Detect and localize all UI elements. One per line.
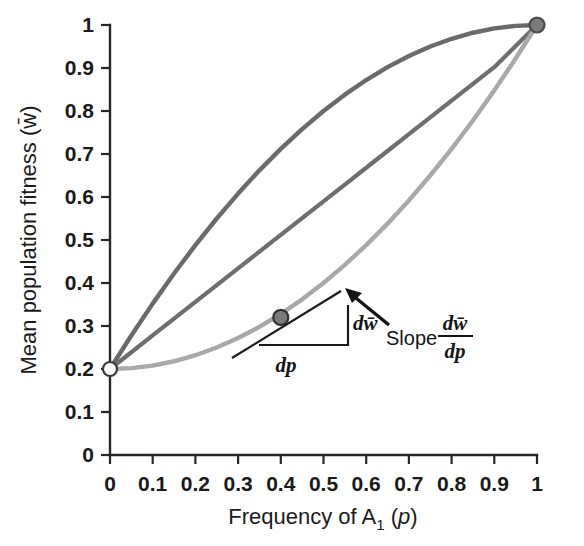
y-tick-label: 1 bbox=[82, 13, 94, 36]
x-tick-label: 0.4 bbox=[266, 472, 296, 495]
x-axis-title-paren-close: ) bbox=[410, 504, 417, 529]
y-tick-label: 0.6 bbox=[65, 185, 94, 208]
slope-denominator: dp bbox=[445, 339, 466, 363]
y-tick-label: 0.8 bbox=[65, 99, 95, 122]
run-label: dp bbox=[276, 353, 297, 377]
fitness-curve-chart: 00.10.20.30.40.50.60.70.80.91 00.10.20.3… bbox=[0, 0, 584, 546]
x-axis-title-paren-open: ( bbox=[385, 504, 399, 529]
x-tick-label: 0.1 bbox=[138, 472, 168, 495]
y-axis-title-group: Mean population fitness (w̄) bbox=[16, 105, 41, 374]
marker-left-endpoint bbox=[103, 362, 117, 376]
y-axis-title-main: Mean population fitness ( bbox=[16, 128, 41, 374]
y-tick-label: 0.1 bbox=[65, 400, 95, 423]
slope-numerator: dw̄ bbox=[443, 311, 469, 335]
marker-tangent-point bbox=[273, 310, 288, 325]
y-tick-label: 0.5 bbox=[65, 228, 95, 251]
x-tick-label: 0.2 bbox=[181, 472, 210, 495]
x-axis-title-main: Frequency of A bbox=[228, 504, 376, 529]
y-tick-label: 0.2 bbox=[65, 357, 94, 380]
y-axis-title-close: ) bbox=[16, 105, 41, 112]
run-label-group: dp bbox=[276, 353, 297, 377]
x-tick-label: 0.8 bbox=[437, 472, 467, 495]
x-axis-title-p: p bbox=[397, 504, 410, 529]
x-tick-label: 0 bbox=[104, 472, 116, 495]
y-tick-label: 0.3 bbox=[65, 314, 94, 337]
y-tick-label: 0.7 bbox=[65, 142, 94, 165]
x-axis-title: Frequency of A1 (p) bbox=[228, 504, 417, 533]
figure-container: 00.10.20.30.40.50.60.70.80.91 00.10.20.3… bbox=[0, 0, 584, 546]
y-tick-label: 0.4 bbox=[65, 271, 95, 294]
x-tick-label: 0.7 bbox=[394, 472, 423, 495]
x-tick-label: 0.6 bbox=[352, 472, 381, 495]
x-tick-label: 0.3 bbox=[223, 472, 252, 495]
x-axis-title-group: Frequency of A1 (p) bbox=[228, 504, 417, 533]
x-tick-label: 0.9 bbox=[480, 472, 509, 495]
y-tick-label: 0.9 bbox=[65, 56, 94, 79]
y-axis-title: Mean population fitness (w̄) bbox=[16, 105, 41, 374]
y-axis-title-wbar: w̄ bbox=[16, 113, 41, 130]
slope-label: Slope bbox=[386, 327, 437, 349]
x-axis-title-subscript: 1 bbox=[376, 516, 384, 533]
y-tick-label: 0 bbox=[82, 443, 94, 466]
marker-right-endpoint bbox=[530, 18, 545, 33]
x-tick-label: 1 bbox=[531, 472, 543, 495]
x-tick-label: 0.5 bbox=[309, 472, 339, 495]
